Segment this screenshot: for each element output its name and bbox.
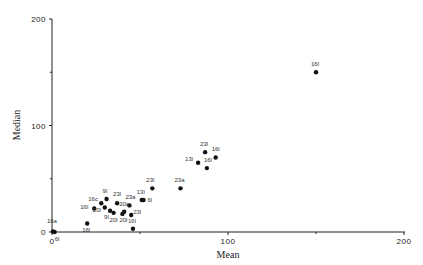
data-point — [122, 210, 126, 214]
data-point — [150, 186, 154, 190]
point-label: 6l — [55, 236, 60, 242]
x-axis-title: Mean — [217, 249, 240, 260]
point-label: 16l — [204, 157, 212, 163]
point-label: 16l — [128, 218, 136, 224]
point-label: 23l — [113, 191, 121, 197]
point-label: 9l — [103, 188, 108, 194]
ticks: 01002000100200 — [31, 15, 411, 246]
point-label: 20a — [119, 201, 130, 207]
data-point — [103, 205, 107, 209]
point-label: 13l — [185, 156, 193, 162]
point-label: 20l — [119, 217, 127, 223]
point-label: 16a — [47, 218, 58, 224]
point-label: 16l — [212, 146, 220, 152]
y-tick-label: 0 — [41, 228, 46, 237]
point-label: 23a — [174, 177, 185, 183]
point-label: 20l — [93, 207, 101, 213]
point-label: 13l — [137, 189, 145, 195]
point-label: 23l — [200, 141, 208, 147]
data-point — [203, 150, 207, 154]
point-label: 23l — [133, 209, 141, 215]
data-point — [314, 70, 318, 74]
data-point — [131, 227, 135, 231]
x-tick-label: 200 — [397, 237, 412, 246]
point-label: 16l — [311, 61, 319, 67]
y-axis-title: Median — [11, 110, 22, 141]
data-point — [52, 230, 56, 234]
point-label: 20l — [110, 217, 118, 223]
point-label: 6l — [148, 197, 153, 203]
scatter-chart: 01002000100200 16a6l16l16l16c20l9l23l9l2… — [0, 0, 423, 265]
point-label: 23a — [125, 194, 136, 200]
point-label: 16l — [82, 227, 90, 233]
data-point — [85, 221, 89, 225]
y-tick-label: 200 — [31, 15, 46, 24]
x-tick-label: 100 — [221, 237, 236, 246]
data-point — [205, 166, 209, 170]
point-label: 16c — [88, 196, 98, 202]
y-tick-label: 100 — [31, 122, 46, 131]
point-label: 16l — [80, 204, 88, 210]
data-points: 16a6l16l16l16c20l9l23l9l20l20l23a20a23l1… — [47, 61, 319, 242]
data-point — [141, 198, 145, 202]
point-label: 23l — [146, 177, 154, 183]
data-point — [104, 197, 108, 201]
data-point — [178, 186, 182, 190]
data-point — [213, 155, 217, 159]
point-label: 9l — [104, 214, 109, 220]
data-point — [111, 211, 115, 215]
data-point — [99, 201, 103, 205]
data-point — [196, 161, 200, 165]
